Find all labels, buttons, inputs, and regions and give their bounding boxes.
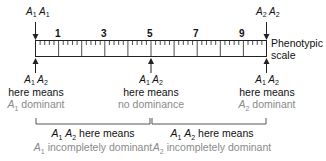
arrowhead-up-right-icon <box>264 58 270 64</box>
arrowhead-down-left-icon <box>33 34 39 40</box>
arrowhead-up-middle-icon <box>148 58 154 64</box>
bracket-left <box>36 118 150 124</box>
marker-no-dominance: A1 A2 here means no dominance <box>111 74 191 110</box>
tick-label-7: 7 <box>193 28 199 39</box>
arrowhead-down-right-icon <box>264 34 270 40</box>
tick-label-9: 9 <box>239 28 245 39</box>
tick-label-5: 5 <box>147 28 153 39</box>
tick-label-3: 3 <box>101 28 107 39</box>
bracket-label-a1-incomplete: A1 A2 here means A1 incompletely dominan… <box>33 127 153 155</box>
bracket-label-a2-incomplete: A1 A2 here means A2 incompletely dominan… <box>150 127 274 155</box>
tick-label-1: 1 <box>55 28 61 39</box>
scale-label: Phenotypic scale <box>271 37 323 61</box>
marker-a1-dominant: A1 A2 here means A1 dominant <box>0 74 72 112</box>
genotype-a2a2: A2 A2 <box>256 6 280 18</box>
genotype-a1a1: A1 A1 <box>26 6 50 18</box>
bracket-right <box>152 118 266 124</box>
arrowhead-up-left-icon <box>33 58 39 64</box>
marker-a2-dominant: A1 A2 here means A2 dominant <box>228 74 306 112</box>
